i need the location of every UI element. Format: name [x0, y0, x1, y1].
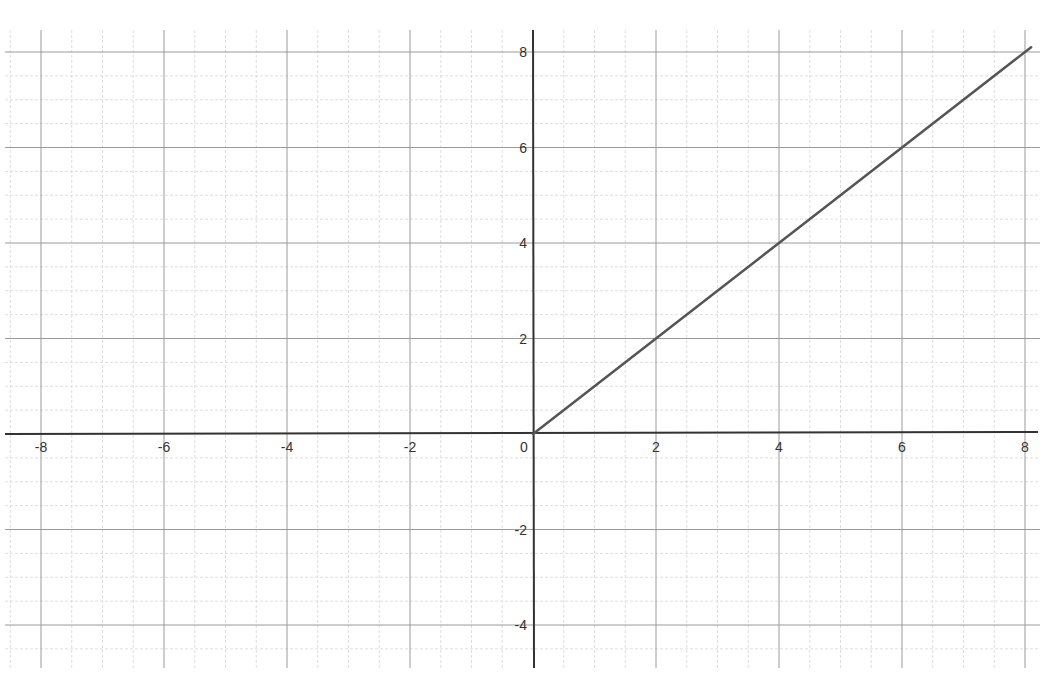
minor-grid — [5, 30, 1040, 668]
plot-area: -8-6-4-224680-4-22468 — [0, 0, 1049, 674]
y-tick-label: 2 — [519, 331, 527, 347]
y-tick-label: 6 — [519, 140, 527, 156]
x-tick-label: -6 — [158, 439, 171, 455]
x-tick-label: 8 — [1021, 439, 1029, 455]
x-tick-label: 4 — [775, 439, 783, 455]
function-curve — [533, 47, 1031, 434]
x-axis — [5, 432, 1038, 434]
function-graph: -8-6-4-224680-4-22468 — [0, 0, 1049, 674]
axes — [5, 30, 1038, 668]
major-grid — [5, 30, 1040, 668]
x-tick-label: 2 — [652, 439, 660, 455]
x-tick-label: -2 — [404, 439, 417, 455]
x-tick-label: -4 — [281, 439, 294, 455]
origin-label: 0 — [520, 439, 528, 455]
y-axis — [533, 30, 534, 668]
y-tick-label: -2 — [515, 522, 528, 538]
x-tick-label: -8 — [35, 439, 48, 455]
data-series — [533, 47, 1031, 434]
y-tick-label: 8 — [519, 44, 527, 60]
x-tick-label: 6 — [898, 439, 906, 455]
y-tick-label: -4 — [515, 617, 528, 633]
y-tick-label: 4 — [519, 235, 527, 251]
